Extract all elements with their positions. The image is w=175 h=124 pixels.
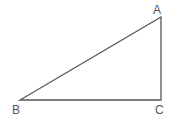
vertex-label-b: B — [12, 103, 20, 117]
vertex-label-c: C — [155, 103, 164, 117]
vertex-label-a: A — [153, 3, 161, 17]
triangle-diagram: A B C — [0, 0, 175, 124]
triangle-abc — [20, 17, 161, 100]
